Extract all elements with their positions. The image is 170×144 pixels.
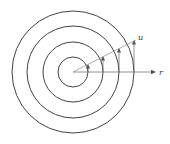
u-ray-line <box>73 40 136 72</box>
r-label: r <box>159 68 164 77</box>
diagram-canvas: u r <box>0 0 170 144</box>
u-label: u <box>138 33 143 42</box>
